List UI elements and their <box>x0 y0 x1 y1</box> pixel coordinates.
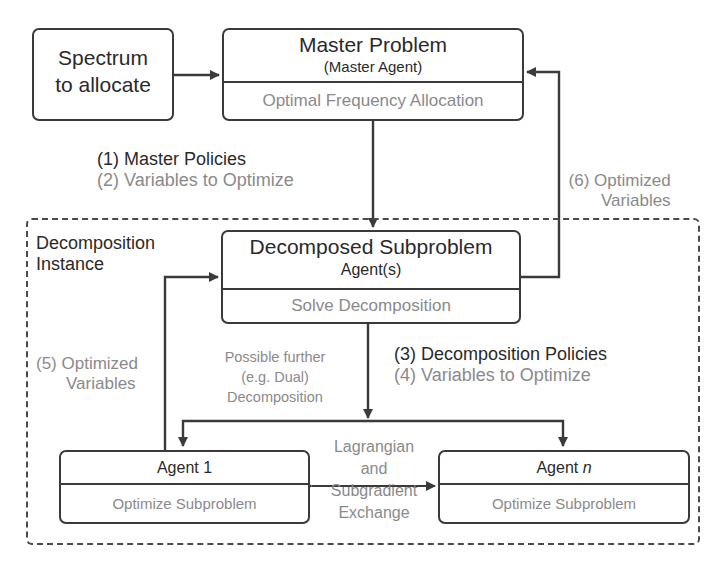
optimized-variables-top-label: (6) Optimized Variables <box>565 171 671 210</box>
master-subtitle: (Master Agent) <box>224 57 522 77</box>
further-decomposition-label: Possible further (e.g. Dual) Decompositi… <box>200 347 350 407</box>
master-body: Optimal Frequency Allocation <box>224 91 522 111</box>
decomposed-subproblem-box: Decomposed Subproblem Agent(s) Solve Dec… <box>221 230 521 324</box>
spectrum-box: Spectrum to allocate <box>32 28 174 121</box>
agent-n-body: Optimize Subproblem <box>440 495 688 512</box>
spectrum-line2: to allocate <box>34 71 172 98</box>
spectrum-line1: Spectrum <box>34 44 172 71</box>
decomposition-instance-label: Decomposition Instance <box>36 233 155 274</box>
decomposed-body: Solve Decomposition <box>223 296 519 316</box>
agent-1-box: Agent 1 Optimize Subproblem <box>59 450 310 524</box>
agent-n-title: Agent n <box>440 459 688 477</box>
master-problem-box: Master Problem (Master Agent) Optimal Fr… <box>222 28 524 121</box>
optimized-variables-left-label: (5) Optimized Variables <box>36 354 138 393</box>
exchange-label: Lagrangian and Subgradient Exchange <box>309 436 439 524</box>
decomposed-title: Decomposed Subproblem <box>223 234 519 259</box>
agent-1-title: Agent 1 <box>61 459 308 477</box>
decomposed-subtitle: Agent(s) <box>223 259 519 281</box>
master-title: Master Problem <box>224 33 522 57</box>
master-policies-label: (1) Master Policies (2) Variables to Opt… <box>97 149 294 190</box>
decomposition-policies-label: (3) Decomposition Policies (4) Variables… <box>394 344 607 385</box>
agent-n-box: Agent n Optimize Subproblem <box>438 450 690 524</box>
agent-1-body: Optimize Subproblem <box>61 495 308 512</box>
